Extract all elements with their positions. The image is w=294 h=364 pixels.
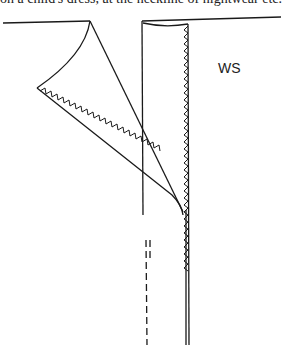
placket-top: [143, 23, 188, 26]
facing-curve: [37, 21, 90, 88]
wrong-side-label: WS: [218, 60, 241, 76]
neckline-left: [3, 21, 90, 23]
fold-line: [90, 21, 183, 212]
dashed-line-1: [146, 240, 147, 345]
facing-lower-edge: [37, 88, 183, 215]
placket-left: [142, 21, 143, 215]
neckline-right: [142, 17, 281, 21]
placket-right: [188, 24, 189, 345]
overcast-stitch-vertical: [184, 26, 188, 271]
seam-diagram: [0, 0, 294, 364]
